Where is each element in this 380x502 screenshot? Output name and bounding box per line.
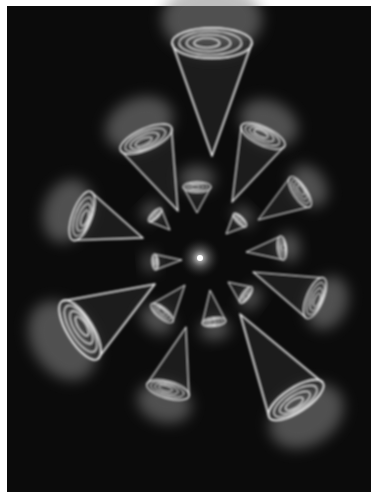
center-point	[197, 255, 203, 261]
radial-cones-artwork	[0, 0, 380, 502]
cone-outline	[147, 327, 189, 396]
cone	[151, 254, 182, 270]
